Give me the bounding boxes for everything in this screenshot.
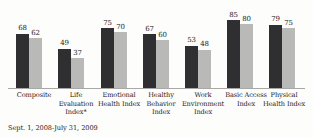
- bar-item: 48: [198, 41, 211, 88]
- bar-dark: [227, 20, 240, 88]
- bar-light: [29, 38, 42, 88]
- bar-light: [282, 28, 295, 88]
- category-label-line: Index*: [46, 108, 106, 117]
- bar-value-label: 80: [242, 16, 251, 23]
- bar-item: 67: [143, 26, 156, 88]
- bar-item: 60: [156, 32, 169, 89]
- category-label-line: Index: [172, 108, 234, 117]
- bar-value-label: 68: [18, 25, 27, 32]
- category-label: Physical Health Index: [256, 91, 312, 108]
- bar-item: 79: [269, 16, 282, 88]
- bar-item: 80: [240, 16, 253, 89]
- bar-value-label: 49: [60, 40, 69, 47]
- bar-dark: [58, 49, 71, 88]
- bar-dark: [269, 25, 282, 88]
- category-axis-labels: Composite Life Evaluation Index* Emotion…: [0, 91, 313, 119]
- bar-light: [71, 58, 84, 88]
- bar-value-label: 53: [187, 37, 196, 44]
- bar-dark: [143, 34, 156, 88]
- bar-dark: [101, 28, 114, 88]
- bar-value-label: 48: [200, 41, 209, 48]
- chart-footnote: Sept. 1, 2008-July 31, 2009: [8, 124, 98, 133]
- category-label-line: Health Index: [256, 100, 312, 109]
- bar-item: 49: [58, 40, 71, 88]
- bar-dark: [16, 34, 29, 88]
- bar-item: 75: [101, 20, 114, 89]
- bar-light: [156, 40, 169, 88]
- bar-value-label: 75: [103, 20, 112, 27]
- bar-value-label: 67: [145, 26, 154, 33]
- bar-value-label: 60: [158, 32, 167, 39]
- bar-value-label: 75: [284, 20, 293, 27]
- category-label-line: Physical: [256, 91, 312, 100]
- bar-value-label: 37: [73, 50, 82, 57]
- bar-item: 68: [16, 25, 29, 88]
- bar-value-label: 62: [31, 30, 40, 37]
- bar-light: [198, 50, 211, 88]
- bar-item: 53: [185, 37, 198, 88]
- bar-light: [240, 24, 253, 88]
- bar-value-label: 85: [229, 12, 238, 19]
- chart-container: 68 62 49 37: [0, 0, 313, 137]
- bar-item: 37: [71, 50, 84, 88]
- plot-area: 68 62 49 37: [0, 0, 313, 89]
- bar-item: 75: [282, 20, 295, 89]
- bar-dark: [185, 46, 198, 88]
- bar-value-label: 79: [271, 16, 280, 23]
- bar-item: 70: [114, 24, 127, 89]
- bar-light: [114, 32, 127, 88]
- axis-baseline: [8, 88, 305, 89]
- bar-item: 85: [227, 12, 240, 89]
- bar-value-label: 70: [116, 24, 125, 31]
- bar-item: 62: [29, 30, 42, 88]
